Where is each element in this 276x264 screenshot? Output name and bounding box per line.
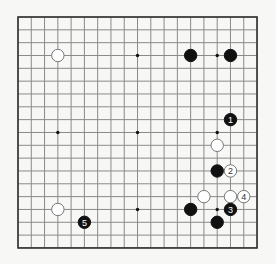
black-stone[interactable] xyxy=(224,49,236,61)
move-number-label: 5 xyxy=(82,218,87,228)
hoshi-point xyxy=(216,54,219,57)
black-stone[interactable] xyxy=(211,165,223,177)
move-number-label: 3 xyxy=(228,205,233,215)
hoshi-point xyxy=(216,208,219,211)
white-stone[interactable] xyxy=(198,190,210,202)
black-stone[interactable] xyxy=(211,216,223,228)
hoshi-point xyxy=(136,54,139,57)
white-stone[interactable] xyxy=(52,203,64,215)
move-number-label: 1 xyxy=(228,115,233,125)
black-stone[interactable] xyxy=(184,203,196,215)
go-board[interactable]: 12435 xyxy=(0,0,276,264)
hoshi-point xyxy=(216,131,219,134)
black-stone[interactable] xyxy=(184,49,196,61)
white-stone[interactable] xyxy=(224,190,236,202)
hoshi-point xyxy=(136,208,139,211)
white-stone[interactable] xyxy=(211,139,223,151)
hoshi-point xyxy=(56,131,59,134)
move-number-label: 2 xyxy=(228,166,233,176)
move-number-label: 4 xyxy=(241,192,246,202)
hoshi-point xyxy=(136,131,139,134)
white-stone[interactable] xyxy=(52,49,64,61)
